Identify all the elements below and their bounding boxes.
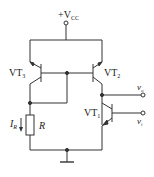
transistor-vt3 xyxy=(30,40,41,103)
vt1-label: VT1 xyxy=(84,107,100,119)
current-label: IR xyxy=(9,118,17,130)
vt2-label: VT2 xyxy=(104,67,120,79)
vt3-label: VT3 xyxy=(9,67,25,79)
transistor-vt1 xyxy=(102,103,141,150)
resistor-label: R xyxy=(38,120,45,131)
vi-terminal xyxy=(141,111,145,115)
vcc-label: +VCC xyxy=(58,9,79,21)
resistor-r xyxy=(26,115,34,135)
vcc-terminal xyxy=(64,21,68,25)
vi-label: vi xyxy=(137,116,143,127)
vo-terminal xyxy=(141,93,145,97)
circuit-diagram: +VCC VT3 VT2 VT1 R IR vo vi xyxy=(0,0,154,177)
vo-label: vo xyxy=(137,82,144,93)
